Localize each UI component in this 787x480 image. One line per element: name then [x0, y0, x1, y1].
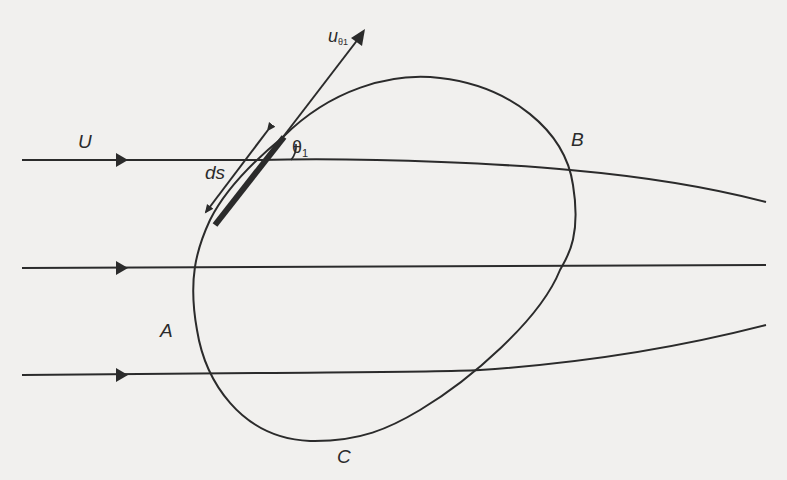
tangential-velocity-arrowhead	[351, 29, 365, 46]
label-tangential-velocity: uθ1	[328, 27, 348, 47]
streamline-2	[22, 265, 766, 268]
diagram-canvas	[0, 0, 787, 480]
angle-subscript: 1	[302, 147, 308, 159]
label-angle: θ1	[292, 138, 308, 159]
velocity-subscript-index: 1	[343, 37, 348, 47]
tangential-velocity-vector	[283, 34, 362, 137]
label-point-c: C	[337, 447, 351, 466]
streamline-3	[22, 325, 766, 375]
streamline-2-arrow	[116, 261, 128, 275]
angle-symbol: θ	[292, 137, 302, 157]
closed-contour	[193, 77, 575, 441]
label-point-a: A	[160, 321, 173, 340]
streamline-1	[22, 159, 766, 202]
element-ds	[215, 137, 284, 225]
label-free-stream-velocity: U	[78, 132, 92, 151]
streamline-1-arrow	[116, 153, 128, 167]
label-point-b: B	[571, 130, 584, 149]
flow-diagram: U ds θ1 uθ1 A B C	[0, 0, 787, 480]
streamline-3-arrow	[116, 368, 128, 382]
velocity-symbol: u	[328, 26, 338, 46]
label-ds: ds	[205, 163, 225, 182]
